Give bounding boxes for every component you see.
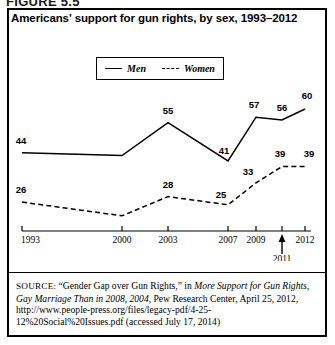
data-value-label: 44 — [16, 135, 27, 146]
chart-title: Americans' support for gun rights, by se… — [11, 11, 301, 25]
source-text-part-1: “Gender Gap over Gun Rights,” in — [56, 280, 194, 291]
data-value-label: 60 — [302, 90, 313, 101]
data-value-label: 28 — [163, 179, 174, 190]
data-value-label: 39 — [304, 148, 315, 159]
figure-number-caption: FIGURE 5.5 — [6, 0, 80, 6]
x-axis-tick-label: 2007 — [219, 235, 238, 245]
data-value-label: 41 — [219, 145, 230, 156]
legend-item-men: Men — [105, 63, 146, 74]
data-value-label: 25 — [216, 189, 227, 200]
x-axis-ticks — [22, 226, 305, 231]
data-value-label: 26 — [16, 184, 27, 195]
data-value-label: 39 — [275, 148, 286, 159]
x-axis-tick-label: 2003 — [159, 235, 178, 245]
line-chart-svg: 445541575660 262825333939 19932000200320… — [9, 86, 325, 261]
callout-label-2011: 2011 — [273, 254, 292, 261]
data-value-label: 56 — [277, 102, 288, 113]
value-labels-men: 445541575660 — [16, 90, 313, 156]
series-line-men — [22, 109, 305, 161]
legend-label-women: Women — [184, 63, 215, 74]
x-axis-tick-labels: 199320002003200720092012 — [21, 235, 315, 245]
x-axis-tick-label: 2000 — [113, 235, 132, 245]
data-value-label: 55 — [163, 105, 174, 116]
callout-arrow-2011 — [279, 234, 286, 254]
x-axis-tick-label: 1993 — [21, 235, 40, 245]
legend-solid-line-icon — [105, 68, 122, 69]
source-keyword: SOURCE: — [16, 281, 56, 291]
plot-area: 445541575660 262825333939 19932000200320… — [9, 86, 325, 261]
x-axis-tick-label: 2012 — [296, 235, 315, 245]
source-note: SOURCE: “Gender Gap over Gun Rights,” in… — [16, 280, 316, 327]
legend-dashed-line-icon — [162, 68, 179, 69]
x-axis-tick-label: 2009 — [247, 235, 266, 245]
legend-label-men: Men — [127, 63, 146, 74]
data-value-label: 57 — [249, 99, 260, 110]
series-line-women — [22, 167, 305, 216]
chart-legend: Men Women — [96, 57, 224, 80]
legend-item-women: Women — [162, 63, 215, 74]
figure-container: FIGURE 5.5 Americans' support for gun ri… — [0, 0, 335, 345]
data-value-label: 33 — [243, 166, 254, 177]
source-divider — [9, 272, 325, 273]
